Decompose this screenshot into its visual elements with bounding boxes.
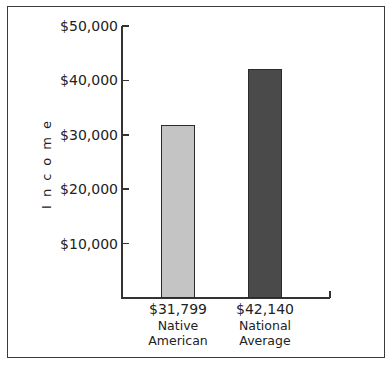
y-tick-mark	[122, 134, 129, 136]
bar-native-american	[161, 125, 195, 298]
y-tick-mark	[122, 188, 129, 190]
y-axis-line	[121, 26, 123, 298]
y-tick-label: $50,000	[60, 19, 118, 33]
y-axis-label: Income	[39, 113, 54, 209]
y-tick-label: $40,000	[60, 73, 118, 87]
x-axis-line	[121, 297, 330, 299]
x-axis-end-tick	[329, 291, 331, 298]
bar-national-average	[248, 69, 282, 298]
category-name-line: American	[133, 333, 223, 348]
x-category-label: $31,799NativeAmerican	[133, 301, 223, 348]
x-category-label: $42,140NationalAverage	[220, 301, 310, 348]
y-tick-mark	[122, 243, 129, 245]
bar-value-label: $42,140	[220, 301, 310, 318]
y-tick-mark	[122, 25, 129, 27]
category-name-line: Average	[220, 333, 310, 348]
bar-value-label: $31,799	[133, 301, 223, 318]
y-tick-label: $10,000	[60, 237, 118, 251]
y-tick-label: $30,000	[60, 128, 118, 142]
category-name-line: Native	[133, 318, 223, 333]
y-tick-mark	[122, 80, 129, 82]
y-tick-label: $20,000	[60, 182, 118, 196]
category-name-line: National	[220, 318, 310, 333]
